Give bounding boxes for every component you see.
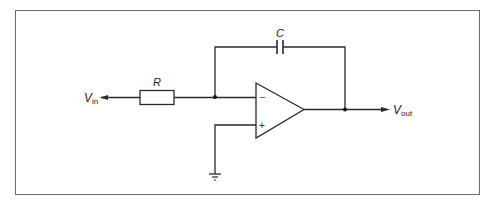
- input-terminal: V in: [84, 91, 140, 106]
- op-amp: − +: [256, 83, 304, 138]
- output-node: [343, 108, 347, 112]
- input-arrow-icon: [100, 95, 108, 100]
- vin-subscript: in: [92, 97, 98, 106]
- output-arrow-icon: [381, 107, 390, 112]
- integrator-circuit: V in R C − + V out: [0, 0, 492, 203]
- noninverting-input-sign: +: [259, 120, 265, 131]
- ground-connection: [209, 125, 256, 180]
- output-terminal: V out: [304, 103, 413, 118]
- capacitor-label: C: [276, 27, 284, 39]
- resistor: R: [140, 76, 174, 105]
- resistor-label: R: [153, 76, 161, 88]
- inverting-input-sign: −: [260, 92, 266, 103]
- vout-subscript: out: [401, 109, 413, 118]
